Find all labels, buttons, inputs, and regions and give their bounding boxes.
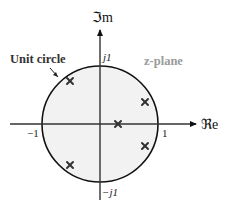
tick-pos-real: 1: [162, 127, 168, 139]
real-axis-label: ℜe: [201, 117, 218, 132]
imag-axis-label: ℑm: [92, 10, 113, 25]
z-plane-diagram: ℑm ℜe j1 −j1 −1 1 Unit circle z-plane: [0, 0, 230, 209]
unit-circle-label: Unit circle: [10, 52, 66, 66]
z-plane-label: z-plane: [144, 54, 183, 68]
tick-neg-real: −1: [27, 127, 39, 139]
tick-pos-imag: j1: [101, 51, 112, 63]
tick-neg-imag: −j1: [102, 186, 118, 198]
